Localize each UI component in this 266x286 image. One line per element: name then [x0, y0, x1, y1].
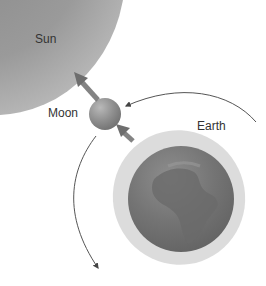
orbit-and-force-arrows [0, 0, 266, 286]
orbit-arc-lower [74, 136, 98, 268]
sun-moon-earth-diagram: Sun Earth Moon [0, 0, 266, 286]
orbit-arc-upper [126, 93, 256, 122]
force-arrow-toward-earth [116, 124, 133, 141]
force-arrow-toward-sun [74, 72, 98, 100]
